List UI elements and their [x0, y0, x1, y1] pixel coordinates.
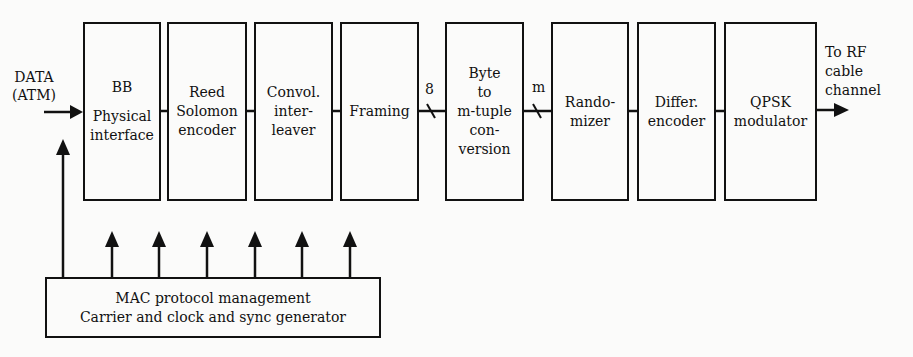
- block-line: Reed: [189, 83, 225, 102]
- cable-modem-transmitter-diagram: DATA (ATM) BB Physical interface Reed So…: [0, 0, 913, 357]
- block-line: Differ.: [655, 93, 699, 112]
- block-line: mizer: [570, 112, 610, 131]
- block-framing: Framing: [340, 22, 419, 201]
- block-line: con-: [469, 121, 499, 140]
- output-label-line1: To RF: [825, 43, 881, 62]
- bus-width-label-8: 8: [425, 80, 434, 98]
- block-reed-solomon-encoder: Reed Solomon encoder: [167, 22, 247, 201]
- block-randomizer: Rando- mizer: [551, 22, 629, 201]
- mac-label-line1: MAC protocol management: [115, 289, 310, 308]
- output-label-line2: cable: [825, 62, 881, 81]
- block-line: QPSK: [750, 93, 791, 112]
- block-line: version: [459, 140, 511, 159]
- block-line: m-tuple: [457, 102, 511, 121]
- block-convol-interleaver: Convol. inter- leaver: [254, 22, 333, 201]
- block-line: encoder: [178, 121, 236, 140]
- block-bb-physical-interface: BB Physical interface: [83, 22, 161, 201]
- block-line: Byte: [468, 64, 500, 83]
- block-line: Convol.: [267, 83, 320, 102]
- block-line: interface: [90, 126, 154, 145]
- block-differential-encoder: Differ. encoder: [637, 22, 716, 201]
- mac-label-line2: Carrier and clock and sync generator: [80, 308, 346, 327]
- output-label: To RF cable channel: [825, 43, 881, 100]
- block-line: modulator: [734, 112, 807, 131]
- block-line: Rando-: [565, 93, 615, 112]
- input-label-line1: DATA: [6, 68, 62, 86]
- output-label-line3: channel: [825, 81, 881, 100]
- bus-width-label-m: m: [532, 78, 545, 96]
- block-byte-to-m-tuple-conversion: Byte to m-tuple con- version: [445, 22, 524, 201]
- block-line: inter-: [274, 102, 313, 121]
- input-label-line2: (ATM): [6, 86, 62, 104]
- block-line: leaver: [272, 121, 316, 140]
- block-qpsk-modulator: QPSK modulator: [724, 22, 817, 201]
- block-line: Physical: [93, 107, 152, 126]
- block-line: Framing: [349, 102, 409, 121]
- block-line: BB: [112, 78, 133, 97]
- input-label: DATA (ATM): [6, 68, 62, 104]
- block-line: to: [477, 83, 491, 102]
- block-line: Solomon: [176, 102, 238, 121]
- block-mac-protocol-management: MAC protocol management Carrier and cloc…: [45, 277, 381, 338]
- block-line: encoder: [648, 112, 706, 131]
